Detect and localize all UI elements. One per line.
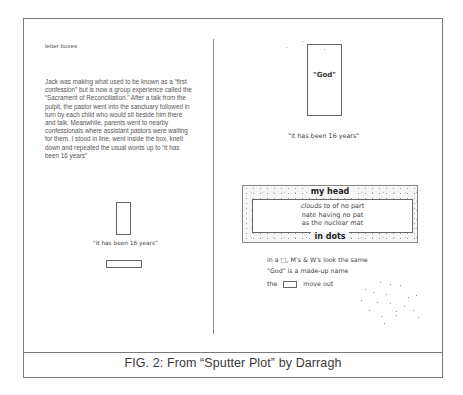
dotted-mini-box (283, 281, 297, 288)
heading-letter-boxes: letter boxes (45, 42, 77, 49)
clouds-line-1: clouds to of no part (253, 203, 412, 210)
caption-divider (24, 352, 442, 353)
in-dots-footer: in dots (243, 232, 417, 241)
speck (286, 47, 287, 48)
clouds-line-3: as the nuclear mat (253, 220, 412, 227)
speck (302, 41, 303, 42)
same-letters-line: in a □, M's & W's look the same (267, 256, 368, 263)
my-head-box: my head clouds to of no part nate having… (242, 185, 418, 243)
column-divider (213, 39, 214, 334)
figure-caption: FIG. 2: From “Sputter Plot” by Darragh (24, 356, 442, 370)
story-paragraph: Jack was making what used to be known as… (45, 78, 193, 160)
clouds-inner-box: clouds to of no part nate having no pat … (252, 199, 413, 233)
made-up-name-line: "God" is a made-up name (267, 267, 348, 274)
speck (324, 49, 325, 50)
right-quote: "it has been 16 years" (288, 132, 359, 140)
god-label: "God" (308, 71, 341, 79)
god-box: "God" (307, 44, 342, 116)
figure-frame: letter boxes Jack was making what used t… (23, 18, 443, 378)
left-box-caption: "it has been 16 years" (93, 240, 158, 246)
move-out-line: themove out (267, 280, 333, 288)
clouds-line-2: nate having no pat (253, 212, 412, 219)
my-head-title: my head (243, 187, 417, 196)
confessional-box-tall (116, 202, 131, 235)
kneeler-box (106, 260, 142, 268)
